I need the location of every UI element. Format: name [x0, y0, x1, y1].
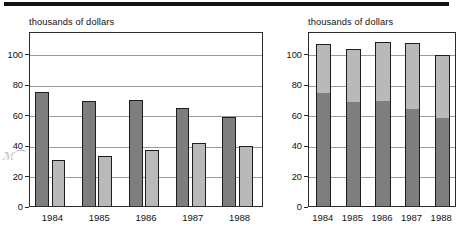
- x-axis-label-1985: 1985: [76, 212, 123, 223]
- y-axis-tick: [304, 176, 308, 177]
- stack-segment-dark-1988: [435, 117, 450, 207]
- stack-segment-light-1984: [316, 44, 331, 93]
- stacked-bar-chart-panel: thousands of dollars 0204060801001984198…: [282, 0, 453, 236]
- x-axis-label-1986: 1986: [123, 212, 170, 223]
- y-axis-tick: [25, 207, 29, 208]
- x-axis-label-1984: 1984: [308, 212, 338, 223]
- y-axis-tick-label: 40: [282, 141, 302, 151]
- grouped-bar-chart-panel: thousands of dollars 0204060801001984198…: [0, 0, 272, 236]
- y-axis-tick-label: 80: [282, 80, 302, 90]
- y-axis-tick: [25, 176, 29, 177]
- x-axis-label-1986: 1986: [367, 212, 397, 223]
- bar-dark-1985: [82, 101, 96, 207]
- bar-dark-1986: [129, 100, 143, 207]
- plot-area-grouped: [29, 32, 263, 207]
- y-axis-title-left: thousands of dollars: [29, 17, 114, 27]
- plot-area-stacked: [308, 32, 456, 207]
- stack-segment-dark-1985: [346, 101, 361, 207]
- bar-dark-1984: [35, 92, 49, 207]
- y-axis-tick: [304, 207, 308, 208]
- y-axis-tick-label: 60: [282, 111, 302, 121]
- stack-segment-dark-1987: [405, 108, 420, 207]
- x-axis-label-1988: 1988: [216, 212, 263, 223]
- stack-segment-dark-1984: [316, 92, 331, 207]
- x-axis-label-1985: 1985: [338, 212, 368, 223]
- y-axis-tick: [304, 115, 308, 116]
- x-axis-label-1984: 1984: [29, 212, 76, 223]
- bar-light-1987: [192, 143, 206, 207]
- y-axis-tick-label: 0: [282, 202, 302, 212]
- y-axis-tick-label: 20: [282, 172, 302, 182]
- y-axis-tick-label: 100: [0, 50, 23, 60]
- stack-segment-light-1987: [405, 43, 420, 109]
- y-axis-tick: [25, 54, 29, 55]
- stack-segment-light-1988: [435, 55, 450, 118]
- y-axis-tick: [25, 146, 29, 147]
- bar-light-1988: [239, 146, 253, 207]
- bar-light-1986: [145, 150, 159, 207]
- y-axis-tick-label: 0: [0, 202, 23, 212]
- y-axis-tick-label: 80: [0, 80, 23, 90]
- x-axis-label-1987: 1987: [169, 212, 216, 223]
- bar-light-1985: [98, 156, 112, 207]
- bar-dark-1988: [222, 117, 236, 207]
- stack-segment-light-1986: [375, 42, 390, 101]
- gridline: [30, 86, 262, 87]
- y-axis-tick: [304, 54, 308, 55]
- gridline: [30, 55, 262, 56]
- x-axis-label-1988: 1988: [426, 212, 456, 223]
- stack-segment-dark-1986: [375, 100, 390, 207]
- y-axis-tick: [304, 85, 308, 86]
- bar-light-1984: [52, 160, 66, 207]
- stack-segment-light-1985: [346, 49, 361, 102]
- y-axis-tick-label: 40: [0, 141, 23, 151]
- x-axis-label-1987: 1987: [397, 212, 427, 223]
- y-axis-tick: [304, 146, 308, 147]
- y-axis-tick-label: 20: [0, 172, 23, 182]
- y-axis-tick: [25, 115, 29, 116]
- y-axis-tick-label: 100: [282, 50, 302, 60]
- y-axis-title-right: thousands of dollars: [308, 17, 393, 27]
- bar-dark-1987: [176, 108, 190, 207]
- y-axis-tick: [25, 85, 29, 86]
- y-axis-tick-label: 60: [0, 111, 23, 121]
